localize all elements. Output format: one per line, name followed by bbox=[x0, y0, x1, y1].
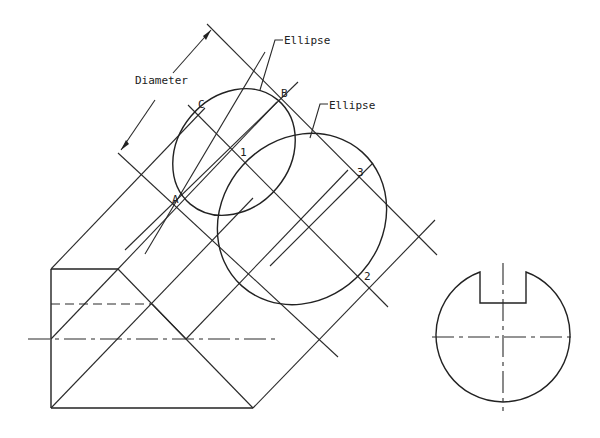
point-3-label: 3 bbox=[357, 166, 364, 179]
point-c-label: C bbox=[198, 98, 205, 111]
point-b-label: B bbox=[281, 87, 288, 100]
technical-drawing: Diameter Ellipse Ellipse A B C 1 2 3 bbox=[0, 0, 600, 438]
ellipse-label-1: Ellipse bbox=[284, 34, 330, 47]
slant-line bbox=[118, 102, 277, 269]
diameter-label: Diameter bbox=[135, 74, 188, 87]
outer-tangent-line bbox=[118, 153, 338, 357]
axis-line bbox=[125, 82, 298, 250]
leader-ellipse-1 bbox=[260, 40, 283, 90]
slant-line bbox=[51, 108, 205, 269]
slant-line bbox=[186, 170, 348, 339]
point-a-label: A bbox=[172, 193, 179, 206]
drawing-canvas: Diameter Ellipse Ellipse A B C 1 2 3 bbox=[0, 0, 600, 438]
point-2-label: 2 bbox=[364, 270, 371, 283]
arrow-head-icon bbox=[121, 140, 129, 150]
end-view bbox=[432, 263, 574, 411]
ellipse-large bbox=[182, 99, 421, 340]
down-slant-line bbox=[152, 304, 186, 339]
point-1-label: 1 bbox=[240, 146, 247, 159]
slant-line bbox=[253, 220, 435, 408]
ellipse-label-2: Ellipse bbox=[329, 99, 375, 112]
